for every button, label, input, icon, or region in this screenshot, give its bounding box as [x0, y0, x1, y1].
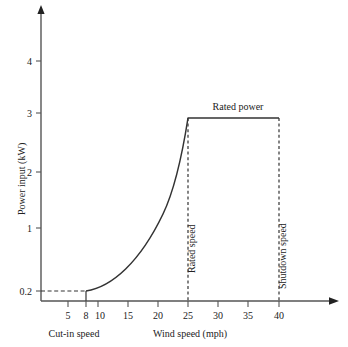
- y-axis: [37, 5, 44, 301]
- y-tick-label-4: 4: [10, 56, 32, 67]
- x-tick-label-35: 35: [243, 310, 253, 321]
- chart-canvas: [0, 0, 348, 347]
- y-tick-marks: [36, 61, 41, 291]
- shutdown-speed-annotation: Shutdown speed: [277, 223, 288, 289]
- x-tick-label-15: 15: [123, 310, 133, 321]
- x-tick-label-20: 20: [153, 310, 163, 321]
- rated-power-annotation: Rated power: [213, 101, 264, 112]
- x-tick-label-8: 8: [84, 310, 89, 321]
- x-tick-label-40: 40: [274, 310, 284, 321]
- wind-turbine-power-curve-chart: 4 3 2 1 0.2 5 8 10 15 20 25 30 35 40 Pow…: [0, 0, 348, 347]
- y-axis-title: Power input (kW): [16, 143, 27, 215]
- cut-in-speed-annotation: Cut-in speed: [49, 328, 100, 339]
- x-tick-label-25: 25: [183, 310, 193, 321]
- x-axis-title: Wind speed (mph): [153, 328, 227, 339]
- rated-speed-annotation: Rated speed: [186, 224, 197, 273]
- y-tick-label-1: 1: [10, 223, 32, 234]
- power-curve-line: [86, 118, 279, 291]
- y-tick-label-3: 3: [10, 108, 32, 119]
- x-tick-label-10: 10: [95, 310, 105, 321]
- x-tick-marks: [68, 301, 279, 307]
- y-tick-label-0: 0.2: [4, 286, 32, 297]
- x-tick-label-5: 5: [66, 310, 71, 321]
- x-tick-label-30: 30: [213, 310, 223, 321]
